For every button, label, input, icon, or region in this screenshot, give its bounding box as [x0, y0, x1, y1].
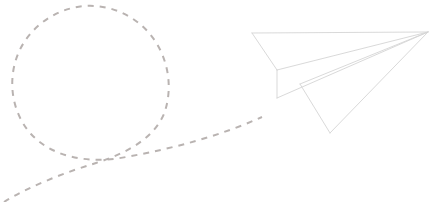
illustration-canvas: A hand-drawn outline of a paper airplane… [0, 0, 445, 202]
paper-plane-illustration: A hand-drawn outline of a paper airplane… [0, 0, 445, 202]
flight-path-trail [4, 6, 262, 202]
paper-plane-group [252, 32, 428, 133]
